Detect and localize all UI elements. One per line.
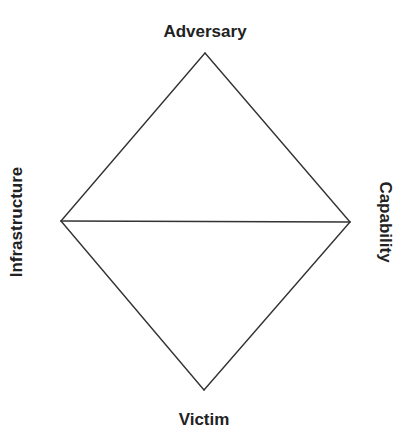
- edge-infrastructure-capability: [61, 221, 350, 222]
- node-label-victim: Victim: [179, 411, 230, 428]
- edge-adversary-capability: [205, 53, 350, 222]
- edge-capability-victim: [204, 222, 350, 390]
- node-label-capability: Capability: [377, 181, 394, 262]
- node-label-infrastructure: Infrastructure: [8, 167, 25, 278]
- node-label-adversary: Adversary: [163, 23, 246, 40]
- diamond-shape: [0, 0, 416, 446]
- edge-infrastructure-adversary: [61, 53, 205, 221]
- edge-victim-infrastructure: [61, 221, 204, 390]
- diamond-model-diagram: Adversary Capability Victim Infrastructu…: [0, 0, 416, 446]
